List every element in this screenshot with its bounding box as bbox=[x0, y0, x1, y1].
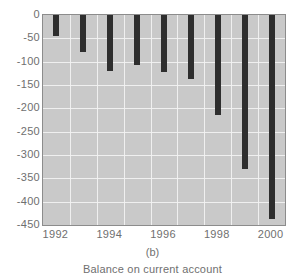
gridline-vertical bbox=[204, 15, 205, 225]
y-axis-tick-label: -350 bbox=[2, 172, 40, 183]
bar-1996 bbox=[161, 15, 167, 72]
gridline-vertical bbox=[231, 15, 232, 225]
x-axis-tick-label: 2000 bbox=[258, 228, 284, 241]
y-axis-tick-label: -150 bbox=[2, 79, 40, 90]
panel-label: (b) bbox=[0, 246, 305, 259]
gridline-vertical bbox=[124, 15, 125, 225]
gridline-horizontal bbox=[43, 202, 285, 203]
gridline-horizontal bbox=[43, 132, 285, 133]
y-axis-tick-label: -100 bbox=[2, 56, 40, 67]
y-axis-tick-label: -50 bbox=[2, 32, 40, 43]
gridline-horizontal bbox=[43, 85, 285, 86]
gridline-vertical bbox=[70, 15, 71, 225]
x-axis-tick-label: 1998 bbox=[204, 228, 230, 241]
gridline-vertical bbox=[97, 15, 98, 225]
bar-1997 bbox=[188, 15, 194, 79]
x-axis: 19921994199619982000 bbox=[0, 228, 305, 246]
x-axis-tick-label: 1992 bbox=[43, 228, 69, 241]
plot-area bbox=[42, 14, 286, 226]
bar-1998 bbox=[215, 15, 221, 115]
y-axis-tick-label: 0 bbox=[2, 9, 40, 20]
bar-1992 bbox=[53, 15, 59, 36]
y-axis-tick-label: -400 bbox=[2, 196, 40, 207]
bar-1994 bbox=[107, 15, 113, 71]
x-axis-tick-label: 1994 bbox=[96, 228, 122, 241]
bar-2000 bbox=[269, 15, 275, 219]
bar-1999 bbox=[242, 15, 248, 169]
bar-1993 bbox=[80, 15, 86, 52]
gridline-vertical bbox=[285, 15, 286, 225]
gridline-vertical bbox=[258, 15, 259, 225]
gridline-horizontal bbox=[43, 108, 285, 109]
gridline-vertical bbox=[151, 15, 152, 225]
x-axis-tick-label: 1996 bbox=[150, 228, 176, 241]
figure-caption: Balance on current account bbox=[0, 263, 305, 276]
y-axis-tick-label: -300 bbox=[2, 149, 40, 160]
bar-1995 bbox=[134, 15, 140, 65]
figure-panel-b: 0-50-100-150-200-250-300-350-400-450 199… bbox=[0, 0, 305, 279]
gridline-horizontal bbox=[43, 178, 285, 179]
gridline-horizontal bbox=[43, 225, 285, 226]
gridline-vertical bbox=[177, 15, 178, 225]
y-axis-tick-label: -200 bbox=[2, 102, 40, 113]
gridline-horizontal bbox=[43, 155, 285, 156]
y-axis-tick-label: -250 bbox=[2, 126, 40, 137]
